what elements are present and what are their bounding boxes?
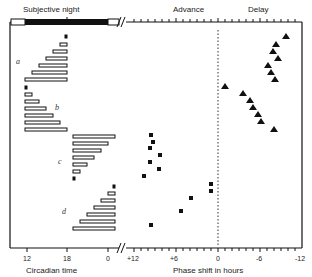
tick-ct-18: 18 [63, 255, 71, 262]
delay-label: Delay [248, 5, 268, 14]
tick-ct-0: 0 [106, 255, 110, 262]
plot-frame [10, 22, 302, 248]
squares-d [149, 182, 213, 227]
phase-shift-figure: Subjective night Advance Delay [0, 0, 312, 277]
pulse-bars-a [25, 35, 67, 81]
pulse-bars-b [25, 86, 67, 131]
circadian-time-label: Circadian time [26, 266, 78, 275]
tick-ps-minus12: -12 [295, 255, 305, 262]
tick-ps-plus12: +12 [127, 255, 139, 262]
triangles-b [221, 83, 278, 132]
advance-label: Advance [173, 5, 205, 14]
pulse-bars-c [73, 135, 115, 180]
squares-c [142, 133, 162, 178]
tick-ps-0: 0 [216, 255, 220, 262]
tick-ct-12: 12 [23, 255, 31, 262]
bottom-ticks [27, 248, 295, 252]
subjective-night-bar [11, 19, 119, 25]
subjective-night-label: Subjective night [23, 5, 80, 14]
triangles-a [264, 33, 290, 82]
tick-ps-minus6: -6 [256, 255, 262, 262]
group-label-b: b [55, 103, 59, 112]
pulse-bars-d [73, 185, 115, 230]
tick-ps-plus6: +6 [170, 255, 178, 262]
group-label-c: c [58, 157, 62, 166]
group-label-d: d [62, 207, 67, 216]
group-label-a: a [16, 57, 20, 66]
phase-shift-label: Phase shift in hours [173, 266, 243, 275]
